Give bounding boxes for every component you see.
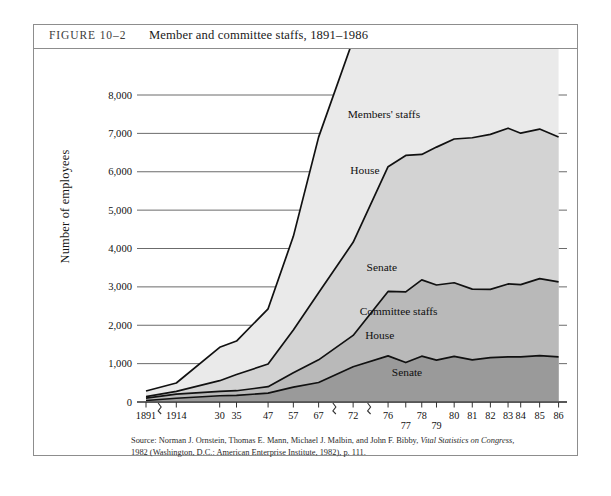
x-tick-label: 1914 [166, 410, 186, 421]
y-tick-label: 1,000 [108, 358, 132, 369]
staff-area-chart: 01,0002,0003,0004,0005,0006,0007,0008,00… [34, 49, 579, 457]
y-tick-label: 5,000 [108, 205, 132, 216]
series-annotation: Committee staffs [360, 305, 438, 317]
x-tick-label: 76 [383, 410, 393, 421]
y-tick-label: 4,000 [108, 243, 132, 254]
x-tick-label: 67 [314, 410, 324, 421]
x-tick-label: 83 [503, 410, 513, 421]
x-tick-label: 57 [288, 410, 298, 421]
y-tick-label: 3,000 [108, 281, 132, 292]
series-annotation: House [350, 164, 379, 176]
x-tick-label: 80 [449, 410, 459, 421]
x-tick-label: 1891 [136, 410, 156, 421]
x-tick-label: 85 [535, 410, 545, 421]
y-tick-label: 6,000 [108, 166, 132, 177]
source-line1-text: Source: Norman J. Ornstein, Thomas E. Ma… [131, 436, 420, 445]
x-tick-label: 30 [215, 410, 225, 421]
chart-plot-area: Number of employees 01,0002,0003,0004,00… [34, 49, 579, 457]
y-tick-label: 2,000 [108, 320, 132, 331]
y-tick-label: 0 [127, 397, 132, 408]
series-annotation: Senate [367, 261, 397, 273]
figure-title: Member and committee staffs, 1891–1986 [149, 28, 368, 43]
x-tick-label: 77 [401, 420, 411, 431]
series-annotation: Senate [392, 366, 422, 378]
figure-number-label: FIGURE 10–2 [49, 29, 126, 41]
source-publication-title: Vital Statistics on Congress, [420, 436, 514, 445]
figure-frame: FIGURE 10–2 Member and committee staffs,… [33, 24, 578, 456]
x-tick-label: 82 [485, 410, 495, 421]
source-note: Source: Norman J. Ornstein, Thomas E. Ma… [131, 435, 591, 458]
series-annotation: Members' staffs [348, 108, 421, 120]
x-tick-label: 47 [263, 410, 273, 421]
page-root: FIGURE 10–2 Member and committee staffs,… [0, 0, 611, 496]
source-line2-text: 1982 (Washington, D.C.: American Enterpr… [131, 448, 366, 457]
x-tick-label: 78 [417, 410, 427, 421]
y-tick-label: 8,000 [108, 90, 132, 101]
axis-break-glyph [333, 403, 336, 414]
y-tick-label: 7,000 [108, 128, 132, 139]
axis-break-glyph [368, 403, 371, 414]
x-tick-label: 79 [431, 420, 441, 431]
x-tick-label: 81 [467, 410, 477, 421]
series-annotation: House [365, 329, 394, 341]
x-tick-label: 35 [231, 410, 241, 421]
x-tick-label: 72 [348, 410, 358, 421]
axis-break-glyph [158, 403, 161, 414]
x-tick-label: 86 [553, 410, 563, 421]
x-tick-label: 84 [516, 410, 526, 421]
